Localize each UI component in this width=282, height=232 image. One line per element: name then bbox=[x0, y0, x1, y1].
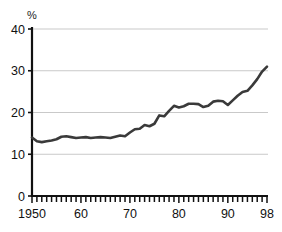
x-tick-label-90: 90 bbox=[221, 207, 235, 221]
x-tick-label-1950: 1950 bbox=[18, 207, 46, 221]
x-tick-label-80: 80 bbox=[172, 207, 186, 221]
y-tick-label-20: 20 bbox=[11, 106, 25, 120]
x-tick-label-98: 98 bbox=[260, 207, 274, 221]
x-tick-label-60: 60 bbox=[74, 207, 88, 221]
y-axis-unit-label: % bbox=[27, 9, 37, 21]
y-tick-label-0: 0 bbox=[18, 190, 25, 204]
line-chart: 403020100 19506070809098 % bbox=[0, 0, 282, 232]
y-tick-label-30: 30 bbox=[11, 64, 25, 78]
chart-container: 403020100 19506070809098 % bbox=[0, 0, 282, 232]
y-tick-label-10: 10 bbox=[11, 148, 25, 162]
x-tick-label-70: 70 bbox=[123, 207, 137, 221]
y-tick-label-40: 40 bbox=[11, 23, 25, 37]
